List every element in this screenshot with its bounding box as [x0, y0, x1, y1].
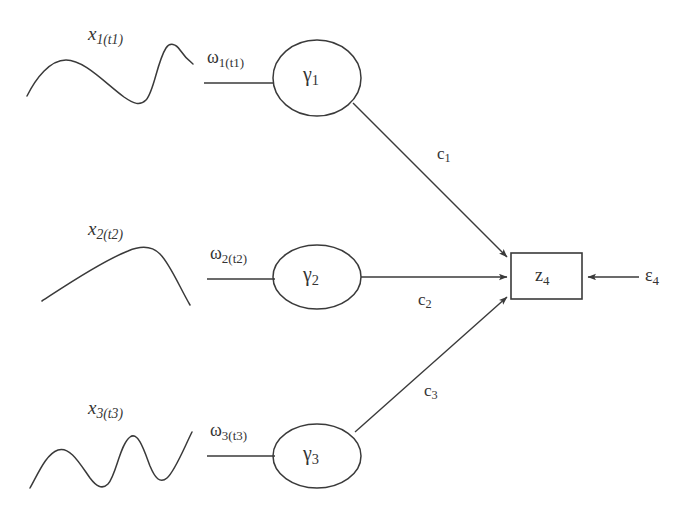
- coefficient-arrow-3: [355, 297, 507, 432]
- diagram-canvas: x1(t1) ω1(t1) γ1 c1 x2(t2) ω2(t2) γ2 c2 …: [0, 0, 689, 515]
- signal-label-2: x2(t2): [88, 219, 123, 242]
- waveform-signal-3: [30, 432, 192, 488]
- gamma-label-3: γ3: [303, 443, 319, 466]
- waveform-signal-2: [42, 247, 190, 305]
- gamma-label-2: γ2: [303, 264, 319, 287]
- waveform-signal-1: [27, 44, 193, 103]
- output-box-label: z4: [535, 266, 549, 288]
- signal-label-3: x3(t3): [88, 398, 123, 421]
- diagram-vector-layer: [0, 0, 689, 515]
- weight-label-1: ω1(t1): [207, 48, 244, 70]
- weight-label-2: ω2(t2): [210, 244, 247, 266]
- coefficient-label-3: c3: [424, 382, 438, 402]
- weight-label-3: ω3(t3): [210, 421, 247, 443]
- coefficient-label-1: c1: [437, 145, 451, 165]
- signal-label-1: x1(t1): [88, 24, 123, 47]
- coefficient-label-2: c2: [418, 291, 432, 311]
- gamma-label-1: γ1: [303, 64, 319, 87]
- noise-label: ε4: [645, 266, 659, 288]
- coefficient-arrow-1: [353, 103, 507, 257]
